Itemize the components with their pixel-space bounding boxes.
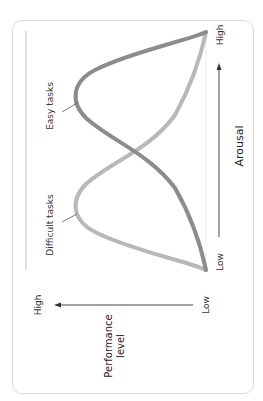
difficult-tasks-label: Difficult tasks xyxy=(45,189,57,261)
arousal-axis-title: Arousal xyxy=(233,120,247,172)
performance-axis-title-line2: level xyxy=(115,310,127,382)
arousal-arrowhead-icon xyxy=(217,63,222,70)
performance-low-label: Low xyxy=(201,290,213,320)
easy-tasks-label: Easy tasks xyxy=(45,78,57,134)
arousal-low-label: Low xyxy=(215,247,227,277)
performance-axis-title: Performance level xyxy=(103,310,129,382)
performance-high-label: High xyxy=(33,290,45,320)
performance-arrowhead-icon xyxy=(54,303,61,308)
difficult-tasks-leader-line xyxy=(62,214,77,222)
easy-tasks-leader-line xyxy=(62,103,77,112)
chart-canvas xyxy=(0,0,263,401)
performance-axis-title-line1: Performance xyxy=(103,310,115,382)
arousal-high-label: High xyxy=(215,20,227,50)
